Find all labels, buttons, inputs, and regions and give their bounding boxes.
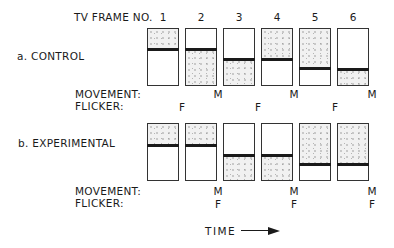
control-flicker-mark: F <box>179 102 185 113</box>
control-frame-3 <box>223 28 255 86</box>
control-movement-mark: M <box>367 89 376 100</box>
image-bar <box>223 154 255 157</box>
shaded-region <box>262 155 292 180</box>
experimental-flicker-mark: F <box>291 199 297 210</box>
experimental-frame-1 <box>147 123 179 181</box>
image-bar <box>261 58 293 61</box>
control-frame-4 <box>261 28 293 86</box>
frame-number-header: TV FRAME NO. <box>74 12 153 23</box>
experimental-frame-2 <box>185 123 217 181</box>
experimental-frame-5 <box>299 123 331 181</box>
experimental-movement-mark: M <box>289 186 298 197</box>
frame-number-1: 1 <box>160 12 167 23</box>
experimental-flicker-mark: F <box>215 199 221 210</box>
condition-label-control: a. CONTROL <box>17 51 84 62</box>
shaded-region <box>224 155 254 180</box>
frame-number-3: 3 <box>236 12 243 23</box>
frame-number-5: 5 <box>312 12 319 23</box>
flicker-label-experimental: FLICKER: <box>75 198 124 209</box>
experimental-frame-4 <box>261 123 293 181</box>
shaded-region <box>300 124 330 164</box>
experimental-movement-mark: M <box>367 186 376 197</box>
experimental-frame-3 <box>223 123 255 181</box>
frame-number-6: 6 <box>350 12 357 23</box>
image-bar <box>185 144 217 147</box>
image-bar <box>337 68 369 71</box>
shaded-region <box>338 124 368 164</box>
shaded-region <box>186 124 216 145</box>
image-bar <box>299 67 331 70</box>
control-movement-mark: M <box>289 89 298 100</box>
image-bar <box>261 154 293 157</box>
condition-label-experimental: b. EXPERIMENTAL <box>18 138 115 149</box>
image-bar <box>185 48 217 51</box>
shaded-region <box>338 69 368 85</box>
control-frame-1 <box>147 28 179 86</box>
image-bar <box>299 163 331 166</box>
control-frame-6 <box>337 28 369 86</box>
image-bar <box>147 144 179 147</box>
image-bar <box>337 163 369 166</box>
shaded-region <box>186 49 216 85</box>
control-frame-5 <box>299 28 331 86</box>
control-flicker-mark: F <box>255 102 261 113</box>
shaded-region <box>224 59 254 85</box>
shaded-region <box>262 29 292 59</box>
shaded-region <box>148 124 178 145</box>
image-bar <box>223 58 255 61</box>
frame-number-4: 4 <box>274 12 281 23</box>
movement-label-control: MOVEMENT: <box>75 89 141 100</box>
shaded-region <box>148 29 178 49</box>
control-movement-mark: M <box>213 89 222 100</box>
shaded-region <box>300 29 330 68</box>
experimental-movement-mark: M <box>213 186 222 197</box>
time-label: TIME <box>205 226 236 237</box>
experimental-flicker-mark: F <box>369 199 375 210</box>
control-flicker-mark: F <box>332 102 338 113</box>
flicker-label-control: FLICKER: <box>75 101 124 112</box>
frame-number-2: 2 <box>198 12 205 23</box>
control-frame-2 <box>185 28 217 86</box>
experimental-frame-6 <box>337 123 369 181</box>
movement-label-experimental: MOVEMENT: <box>75 186 141 197</box>
image-bar <box>147 48 179 51</box>
